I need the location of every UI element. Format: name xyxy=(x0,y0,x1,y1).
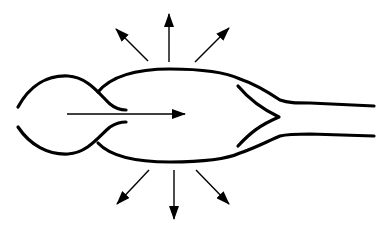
inlet-lower-lobe xyxy=(18,122,126,154)
radial-arrow-top-right xyxy=(195,28,229,62)
radial-arrow-bottom-right xyxy=(196,170,229,204)
body-lower-outline xyxy=(98,134,374,162)
radial-arrow-bottom-left xyxy=(117,170,149,204)
radial-arrow-top-left xyxy=(116,29,148,61)
bulb-flow-diagram xyxy=(0,0,378,227)
body-upper-outline xyxy=(98,69,374,106)
